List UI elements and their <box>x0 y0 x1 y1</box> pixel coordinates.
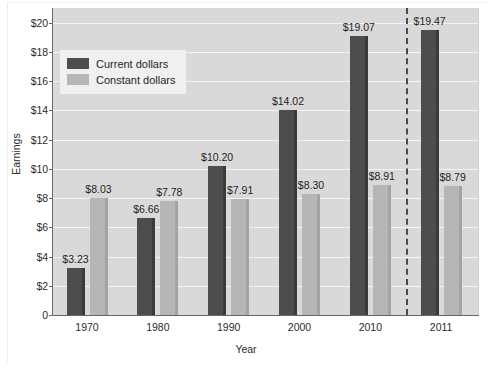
x-tick-label: 2011 <box>411 321 471 333</box>
bar-value-label: $7.78 <box>142 187 196 198</box>
bar-face <box>67 268 82 315</box>
bar-face <box>444 186 459 315</box>
y-tick-mark <box>49 169 53 170</box>
bar <box>67 268 85 315</box>
y-axis-title: Earnings <box>10 119 22 189</box>
bar <box>444 186 462 315</box>
bar-face <box>90 198 105 315</box>
x-tick-label: 1990 <box>199 321 259 333</box>
legend-item-label: Current dollars <box>96 58 168 70</box>
bar <box>302 194 320 315</box>
y-tick-label: $14 <box>4 105 48 115</box>
bar-value-label: $14.02 <box>261 96 315 107</box>
bar-value-label: $19.07 <box>332 22 386 33</box>
y-tick-mark <box>49 52 53 53</box>
bar-side <box>294 110 297 315</box>
bar-face <box>160 201 175 315</box>
y-axis-ticks: 0$2$4$6$8$10$12$14$16$18$20 <box>0 0 48 368</box>
bar-value-label: $19.47 <box>403 16 457 27</box>
gridline <box>53 169 478 170</box>
y-tick-label: $18 <box>4 47 48 57</box>
bar-face <box>373 185 388 315</box>
gridline <box>53 110 478 111</box>
y-tick-label: $4 <box>4 252 48 262</box>
bar-side <box>82 268 85 315</box>
legend-swatch-icon <box>67 74 89 85</box>
x-axis-line <box>53 315 479 316</box>
y-tick-label: $6 <box>4 222 48 232</box>
chart-legend: Current dollars Constant dollars <box>60 50 186 94</box>
gridline <box>53 286 478 287</box>
bar-value-label: $7.91 <box>213 185 267 196</box>
bar <box>90 198 108 315</box>
bar-side <box>246 199 249 315</box>
bar <box>231 199 249 315</box>
gridline <box>53 198 478 199</box>
plot-right-edge <box>478 8 479 315</box>
bar-side <box>317 194 320 315</box>
x-tick-label: 1970 <box>57 321 117 333</box>
y-tick-mark <box>49 81 53 82</box>
y-tick-label: $8 <box>4 193 48 203</box>
y-tick-label: $2 <box>4 281 48 291</box>
x-axis-title: Year <box>0 343 492 355</box>
bar-face <box>279 110 294 315</box>
bar-face <box>231 199 246 315</box>
bar <box>137 218 155 315</box>
bar-face <box>302 194 317 315</box>
bar <box>160 201 178 315</box>
bar-side <box>388 185 391 315</box>
bar-value-label: $8.79 <box>426 172 480 183</box>
bar-value-label: $8.91 <box>355 171 409 182</box>
bar-side <box>175 201 178 315</box>
y-tick-mark <box>49 23 53 24</box>
bar-value-label: $8.03 <box>72 184 126 195</box>
legend-item-constant-dollars: Constant dollars <box>67 72 176 87</box>
bar <box>279 110 297 315</box>
y-tick-mark <box>49 198 53 199</box>
gridline <box>53 227 478 228</box>
bar-side <box>105 198 108 315</box>
x-tick-label: 1980 <box>128 321 188 333</box>
y-axis-line <box>52 8 53 316</box>
bar-side <box>459 186 462 315</box>
y-tick-mark <box>49 286 53 287</box>
gridline <box>53 257 478 258</box>
y-tick-label: 0 <box>4 310 48 320</box>
legend-item-label: Constant dollars <box>96 74 176 86</box>
x-tick-label: 2000 <box>270 321 330 333</box>
bar-value-label: $10.20 <box>190 152 244 163</box>
y-tick-mark <box>49 140 53 141</box>
bar <box>373 185 391 315</box>
legend-item-current-dollars: Current dollars <box>67 56 176 71</box>
bar-value-label: $8.30 <box>284 180 338 191</box>
forecast-divider-line <box>406 8 408 315</box>
x-tick-label: 2010 <box>340 321 400 333</box>
legend-swatch-icon <box>67 58 89 69</box>
y-tick-label: $20 <box>4 18 48 28</box>
y-tick-label: $16 <box>4 76 48 86</box>
bar-face <box>137 218 152 315</box>
y-tick-mark <box>49 227 53 228</box>
y-tick-mark <box>49 315 53 316</box>
y-tick-mark <box>49 110 53 111</box>
gridline <box>53 140 478 141</box>
bar-side <box>152 218 155 315</box>
chart-figure: 0$2$4$6$8$10$12$14$16$18$20 $3.23$8.03$6… <box>0 0 492 368</box>
